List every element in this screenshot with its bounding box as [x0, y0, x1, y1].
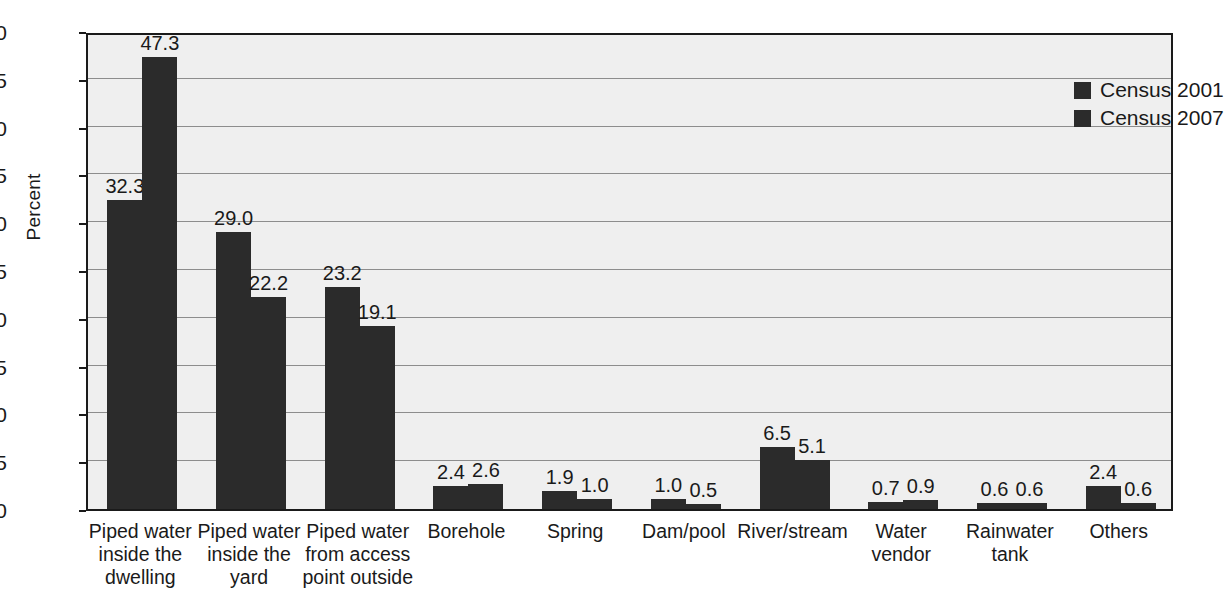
y-tick-label: 20: [0, 309, 7, 330]
bar[interactable]: [1121, 503, 1156, 509]
bar-group: 0.70.9: [868, 35, 938, 509]
y-tick-mark: [79, 367, 86, 369]
bar-group: 29.022.2: [216, 35, 286, 509]
y-tick-label: 40: [0, 118, 7, 139]
x-axis-category-label: Others: [1052, 520, 1185, 543]
bar[interactable]: [1012, 503, 1047, 509]
bar[interactable]: [142, 57, 177, 509]
bar-value-label: 1.0: [566, 475, 623, 495]
bar[interactable]: [868, 502, 903, 509]
bar[interactable]: [360, 326, 395, 509]
y-tick-mark: [79, 510, 86, 512]
y-tick-mark: [79, 128, 86, 130]
y-tick-label: 5: [0, 452, 7, 473]
x-axis-category-line: Others: [1052, 520, 1185, 543]
bar[interactable]: [468, 484, 503, 509]
legend-item[interactable]: Census 2007: [1074, 104, 1228, 132]
y-tick-mark: [79, 223, 86, 225]
bar-group: 2.42.6: [433, 35, 503, 509]
bar[interactable]: [107, 200, 142, 509]
bar-group: 1.00.5: [651, 35, 721, 509]
legend-label: Census 2001: [1100, 78, 1224, 102]
bar[interactable]: [577, 499, 612, 509]
y-tick-label: 10: [0, 404, 7, 425]
y-tick-label: 50: [0, 22, 7, 43]
bar-value-label: 5.1: [784, 436, 841, 456]
y-tick-mark: [79, 319, 86, 321]
bar-value-label: 19.1: [349, 302, 406, 322]
bar[interactable]: [903, 500, 938, 509]
legend-label: Census 2007: [1100, 106, 1224, 130]
x-axis-category-line: from access: [291, 543, 424, 566]
y-axis-title: Percent: [23, 137, 45, 277]
y-tick-mark: [79, 175, 86, 177]
bar[interactable]: [795, 460, 830, 509]
y-tick-label: 35: [0, 165, 7, 186]
bar-value-label: 0.5: [675, 480, 732, 500]
legend-item[interactable]: Census 2001: [1074, 76, 1228, 104]
bar-value-label: 2.6: [457, 460, 514, 480]
bar-group: 32.347.3: [107, 35, 177, 509]
plot-area: 32.347.329.022.223.219.12.42.61.91.01.00…: [86, 33, 1173, 511]
bar-group: 1.91.0: [542, 35, 612, 509]
chart-legend: Census 2001Census 2007: [1074, 76, 1228, 132]
x-axis-category-line: point outside: [291, 566, 424, 589]
y-tick-label: 15: [0, 357, 7, 378]
bar-group: 0.60.6: [977, 35, 1047, 509]
bar-value-label: 22.2: [240, 273, 297, 293]
bar-group: 6.55.1: [760, 35, 830, 509]
y-tick-label: 30: [0, 213, 7, 234]
bar-value-label: 0.9: [892, 476, 949, 496]
bar-value-label: 23.2: [314, 263, 371, 283]
bar[interactable]: [433, 486, 468, 509]
bar-value-label: 0.6: [1001, 479, 1058, 499]
bar-value-label: 0.6: [1110, 479, 1167, 499]
bar-value-label: 47.3: [131, 33, 188, 53]
legend-swatch-icon: [1074, 110, 1091, 127]
y-tick-mark: [79, 462, 86, 464]
bar[interactable]: [651, 499, 686, 509]
y-tick-label: 25: [0, 261, 7, 282]
x-axis-category-line: tank: [944, 543, 1077, 566]
bar[interactable]: [977, 503, 1012, 509]
y-tick-label: 0: [0, 500, 7, 521]
y-tick-label: 45: [0, 70, 7, 91]
y-tick-mark: [79, 414, 86, 416]
legend-swatch-icon: [1074, 82, 1091, 99]
y-tick-mark: [79, 80, 86, 82]
bar[interactable]: [251, 297, 286, 509]
bar[interactable]: [686, 504, 721, 509]
bar-group: 23.219.1: [325, 35, 395, 509]
y-tick-mark: [79, 271, 86, 273]
y-tick-mark: [79, 32, 86, 34]
bar-value-label: 29.0: [205, 208, 262, 228]
